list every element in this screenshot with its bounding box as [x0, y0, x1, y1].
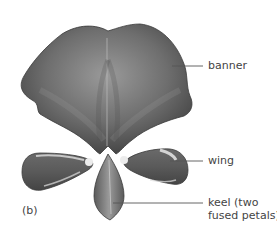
wing-petal-right: [120, 149, 188, 185]
diagram-canvas: banner wing keel (two fused petals) (b): [0, 0, 277, 242]
wing-petal-left: [22, 153, 93, 190]
keel-label: keel (two fused petals): [208, 196, 277, 222]
wing-label: wing: [208, 154, 234, 167]
panel-letter: (b): [22, 204, 38, 217]
banner-label: banner: [208, 59, 247, 72]
keel-petal: [94, 154, 124, 220]
banner-petal: [21, 24, 192, 154]
